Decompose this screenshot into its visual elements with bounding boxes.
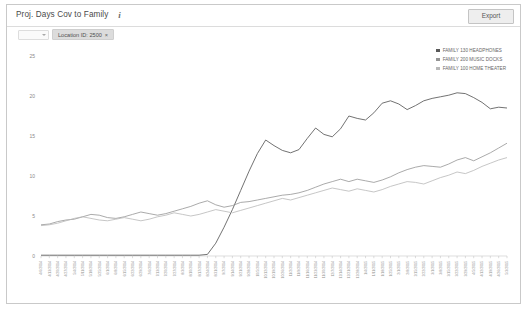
svg-text:2/8/2015: 2/8/2015	[406, 261, 410, 275]
svg-text:25: 25	[29, 53, 35, 59]
svg-text:2/1/2015: 2/1/2015	[397, 261, 401, 275]
svg-text:5/3/2015: 5/3/2015	[505, 261, 509, 275]
svg-text:2/15/2015: 2/15/2015	[414, 261, 418, 277]
svg-text:3/22/2015: 3/22/2015	[455, 261, 459, 277]
svg-text:6/1/2014: 6/1/2014	[106, 261, 110, 275]
export-button[interactable]: Export	[468, 9, 514, 24]
svg-text:8/31/2014: 8/31/2014	[214, 261, 218, 277]
close-icon[interactable]: ×	[105, 30, 108, 40]
svg-text:9/28/2014: 9/28/2014	[247, 261, 251, 277]
svg-text:10: 10	[29, 173, 35, 179]
svg-text:9/14/2014: 9/14/2014	[231, 261, 235, 277]
chevron-down-icon	[42, 34, 46, 36]
svg-text:4/12/2015: 4/12/2015	[480, 261, 484, 277]
svg-text:10/26/2014: 10/26/2014	[281, 261, 285, 279]
svg-text:11/9/2014: 11/9/2014	[297, 261, 301, 276]
chart-widget: Proj. Days Cov to Family i Export Locati…	[0, 0, 527, 310]
filter-chip-label: Location ID: 2500	[58, 32, 102, 38]
svg-text:6/29/2014: 6/29/2014	[139, 261, 143, 277]
svg-text:8/24/2014: 8/24/2014	[206, 261, 210, 277]
widget-header: Proj. Days Cov to Family i Export	[7, 5, 520, 27]
svg-text:8/17/2014: 8/17/2014	[198, 261, 202, 277]
svg-text:1/18/2015: 1/18/2015	[381, 261, 385, 277]
filter-chip-location[interactable]: Location ID: 2500×	[52, 29, 114, 40]
svg-text:1/4/2015: 1/4/2015	[364, 261, 368, 275]
svg-text:1/25/2015: 1/25/2015	[389, 261, 393, 277]
svg-text:5/18/2014: 5/18/2014	[89, 261, 93, 277]
svg-text:7/20/2014: 7/20/2014	[164, 261, 168, 277]
svg-text:5: 5	[32, 213, 35, 219]
svg-text:15: 15	[29, 133, 35, 139]
line-chart: 05101520254/6/20144/13/20144/20/20144/27…	[7, 44, 522, 304]
page-title: Proj. Days Cov to Family	[16, 10, 108, 19]
chart-plot-area: 05101520254/6/20144/13/20144/20/20144/27…	[7, 44, 522, 304]
svg-text:4/19/2015: 4/19/2015	[489, 261, 493, 277]
svg-text:9/7/2014: 9/7/2014	[222, 261, 226, 275]
svg-text:3/29/2015: 3/29/2015	[464, 261, 468, 277]
svg-text:6/22/2014: 6/22/2014	[131, 261, 135, 277]
svg-text:12/21/2014: 12/21/2014	[347, 261, 351, 279]
svg-text:1/11/2015: 1/11/2015	[372, 261, 376, 276]
svg-text:5/11/2014: 5/11/2014	[81, 261, 85, 276]
info-icon[interactable]: i	[115, 9, 124, 21]
svg-text:12/7/2014: 12/7/2014	[331, 261, 335, 277]
series-line	[41, 93, 507, 255]
svg-text:4/5/2015: 4/5/2015	[472, 261, 476, 275]
svg-text:3/8/2015: 3/8/2015	[439, 261, 443, 275]
svg-text:10/19/2014: 10/19/2014	[272, 261, 276, 279]
svg-text:6/8/2014: 6/8/2014	[114, 261, 118, 275]
svg-text:5/4/2014: 5/4/2014	[73, 261, 77, 275]
svg-text:7/13/2014: 7/13/2014	[156, 261, 160, 277]
svg-text:9/21/2014: 9/21/2014	[239, 261, 243, 277]
svg-text:4/6/2014: 4/6/2014	[39, 261, 43, 275]
svg-text:12/14/2014: 12/14/2014	[339, 261, 343, 279]
svg-text:20: 20	[29, 93, 35, 99]
svg-text:3/15/2015: 3/15/2015	[447, 261, 451, 277]
svg-text:11/30/2014: 11/30/2014	[322, 261, 326, 278]
svg-text:4/27/2014: 4/27/2014	[64, 261, 68, 277]
svg-text:8/10/2014: 8/10/2014	[189, 261, 193, 277]
svg-text:2/22/2015: 2/22/2015	[422, 261, 426, 277]
svg-text:6/15/2014: 6/15/2014	[123, 261, 127, 277]
svg-text:5/25/2014: 5/25/2014	[98, 261, 102, 277]
svg-text:10/5/2014: 10/5/2014	[256, 261, 260, 277]
svg-text:4/26/2015: 4/26/2015	[497, 261, 501, 277]
svg-text:11/23/2014: 11/23/2014	[314, 261, 318, 278]
svg-text:12/28/2014: 12/28/2014	[356, 261, 360, 279]
svg-text:11/16/2014: 11/16/2014	[306, 261, 310, 278]
svg-text:7/27/2014: 7/27/2014	[173, 261, 177, 277]
filter-dropdown[interactable]	[18, 30, 49, 40]
svg-text:8/3/2014: 8/3/2014	[181, 261, 185, 275]
svg-text:4/13/2014: 4/13/2014	[48, 261, 52, 277]
svg-text:0: 0	[32, 253, 35, 259]
svg-text:11/2/2014: 11/2/2014	[289, 261, 293, 276]
svg-text:10/12/2014: 10/12/2014	[264, 261, 268, 279]
filter-bar: Location ID: 2500×	[7, 27, 520, 44]
svg-text:3/1/2015: 3/1/2015	[431, 261, 435, 275]
series-line	[41, 158, 507, 226]
svg-text:4/20/2014: 4/20/2014	[56, 261, 60, 277]
svg-text:7/6/2014: 7/6/2014	[148, 261, 152, 275]
chart-panel: Proj. Days Cov to Family i Export Locati…	[6, 4, 521, 304]
series-line	[41, 143, 507, 225]
